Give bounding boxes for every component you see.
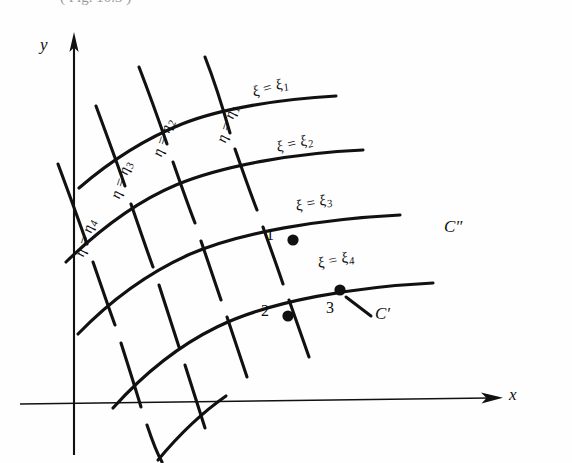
eta-curve-2-seg-d <box>227 317 247 377</box>
eta-curve-1-seg-d <box>289 300 309 357</box>
y-axis-label: y <box>40 36 48 53</box>
c-double-prime-label: C″ <box>444 218 462 235</box>
x-axis-line <box>20 398 489 404</box>
eta-curve-3-seg-b <box>131 204 153 267</box>
x-axis-label: x <box>509 386 517 403</box>
eta-curve-2-seg-c <box>201 241 221 300</box>
point-2-marker <box>282 310 293 321</box>
eta-curve-1-seg-b <box>235 149 257 210</box>
xi-curves-group <box>66 96 433 460</box>
xi-curve-5-fragment <box>158 396 226 460</box>
eta-curve-4-seg-d <box>147 425 162 462</box>
figure-container: ( Fig. 10.3 ) <box>0 0 572 463</box>
eta-curve-2-seg-b <box>173 162 195 223</box>
xi-curve-4 <box>113 283 433 408</box>
c-prime-stub <box>346 297 371 316</box>
point-1-marker <box>287 234 298 245</box>
point-2-label: 2 <box>261 303 269 319</box>
eta-curve-3-seg-c <box>159 285 179 347</box>
c-prime-label: C′ <box>375 305 390 322</box>
point-3-marker <box>334 284 345 295</box>
point-3-label: 3 <box>326 300 334 316</box>
point-1-label: 1 <box>266 227 274 243</box>
characteristic-stubs-group <box>346 297 371 316</box>
eta-curve-3-seg-d <box>185 365 205 428</box>
